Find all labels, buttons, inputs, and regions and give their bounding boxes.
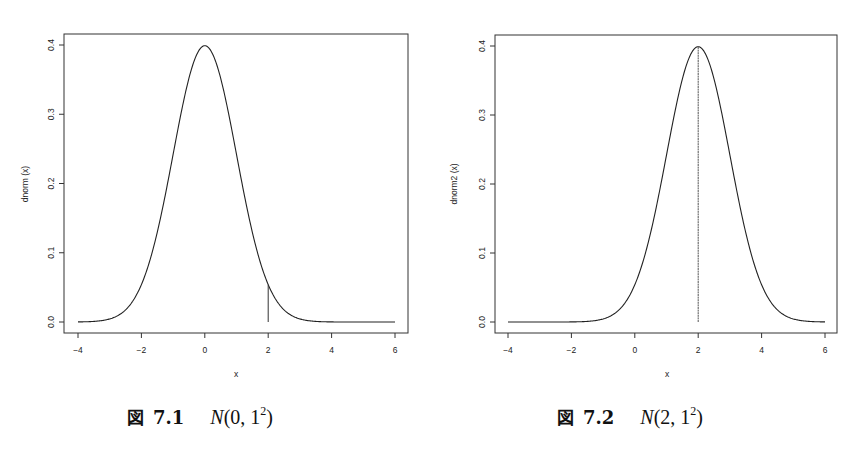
x-tick-label: −2 <box>137 345 147 355</box>
figure-number: 7.2 <box>583 407 614 428</box>
distribution-label: N(0, 12) <box>210 406 273 429</box>
x-tick-label: −2 <box>567 345 577 355</box>
figure-number: 7.1 <box>153 407 184 428</box>
x-tick-label: 2 <box>266 345 271 355</box>
y-tick-label: 0.3 <box>477 109 487 121</box>
plot-frame <box>495 35 837 333</box>
x-axis: −4−20246 <box>73 333 397 355</box>
y-tick-label: 0.4 <box>46 39 56 51</box>
y-tick-label: 0.0 <box>477 316 487 328</box>
dist-close: ) <box>696 406 703 428</box>
y-tick-label: 0.4 <box>477 40 487 52</box>
dist-symbol: N <box>210 406 223 428</box>
y-tick-label: 0.2 <box>46 177 56 189</box>
x-axis: −4−20246 <box>503 333 827 355</box>
y-tick-label: 0.1 <box>477 247 487 259</box>
y-axis-title: dnorm (x) <box>20 166 30 203</box>
y-tick-label: 0.0 <box>46 316 56 328</box>
x-axis-title: x <box>234 369 239 379</box>
x-tick-label: 0 <box>632 345 637 355</box>
dist-symbol: N <box>640 406 653 428</box>
plot-frame <box>64 34 408 333</box>
x-tick-label: −4 <box>73 345 83 355</box>
distribution-label: N(2, 12) <box>640 406 703 429</box>
chart-2: 0.00.10.20.30.4 −4−20246 dnorm2 (x) x <box>427 0 857 400</box>
density-curve <box>78 46 395 322</box>
x-tick-label: 0 <box>202 345 207 355</box>
y-tick-label: 0.2 <box>477 178 487 190</box>
density-curve <box>508 47 825 322</box>
chart-1: 0.00.10.20.30.4 −4−20246 dnorm (x) x <box>0 0 430 400</box>
x-tick-label: 6 <box>823 345 828 355</box>
dist-close: ) <box>266 406 273 428</box>
y-axis: 0.00.10.20.30.4 <box>477 40 495 328</box>
x-tick-label: 4 <box>329 345 334 355</box>
figure-caption-2: 図 7.2 N(2, 12) <box>557 404 703 429</box>
figure-caption-1: 図 7.1 N(0, 12) <box>127 404 273 429</box>
dist-args: (2, 1 <box>654 406 691 428</box>
y-axis-title: dnorm2 (x) <box>449 163 459 204</box>
figure-prefix: 図 <box>557 404 574 429</box>
x-tick-label: 2 <box>696 345 701 355</box>
y-tick-label: 0.3 <box>46 108 56 120</box>
dist-args: (0, 1 <box>224 406 261 428</box>
figure-prefix: 図 <box>127 404 144 429</box>
y-axis: 0.00.10.20.30.4 <box>46 39 64 328</box>
x-tick-label: −4 <box>503 345 513 355</box>
x-tick-label: 6 <box>393 345 398 355</box>
x-axis-title: x <box>665 369 670 379</box>
x-tick-label: 4 <box>759 345 764 355</box>
y-tick-label: 0.1 <box>46 247 56 259</box>
